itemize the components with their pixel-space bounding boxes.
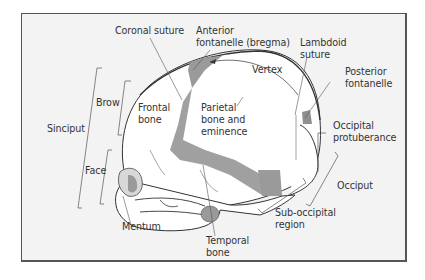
label-anterior-fontanelle-line2: fontanelle (bregma) — [196, 37, 290, 49]
sinciput-bracket — [78, 68, 102, 208]
face-bracket — [100, 150, 112, 204]
label-frontal-bone-line2: bone — [138, 114, 162, 126]
label-occipital-protuberance-line1: Occipital — [333, 120, 374, 132]
label-face: Face — [85, 165, 106, 177]
temporal-bone-patch — [201, 206, 219, 222]
label-posterior-fontanelle-line1: Posterior — [345, 66, 387, 78]
label-lambdoid-line2: suture — [300, 49, 330, 61]
label-mentum: Mentum — [122, 221, 161, 233]
label-parietal-line2: bone and — [201, 114, 245, 126]
label-coronal-suture: Coronal suture — [115, 25, 184, 37]
label-parietal-line1: Parietal — [201, 102, 236, 114]
label-vertex: Vertex — [252, 64, 282, 76]
label-lambdoid-line1: Lambdoid — [300, 37, 347, 49]
label-occiput: Occiput — [337, 180, 373, 192]
label-occipital-protuberance-line2: protuberance — [333, 132, 396, 144]
label-parietal-line3: eminence — [201, 126, 247, 138]
label-frontal-bone-line1: Frontal — [138, 102, 170, 114]
label-sub-occipital-line2: region — [275, 219, 305, 231]
label-temporal-bone-line1: Temporal — [206, 235, 249, 247]
label-posterior-fontanelle-line2: fontanelle — [345, 78, 392, 90]
label-brow: Brow — [96, 97, 120, 109]
label-sinciput: Sinciput — [47, 123, 85, 135]
label-anterior-fontanelle-line1: Anterior — [196, 25, 234, 37]
label-sub-occipital-line1: Sub-occipital — [275, 207, 336, 219]
label-temporal-bone-line2: bone — [206, 247, 230, 259]
